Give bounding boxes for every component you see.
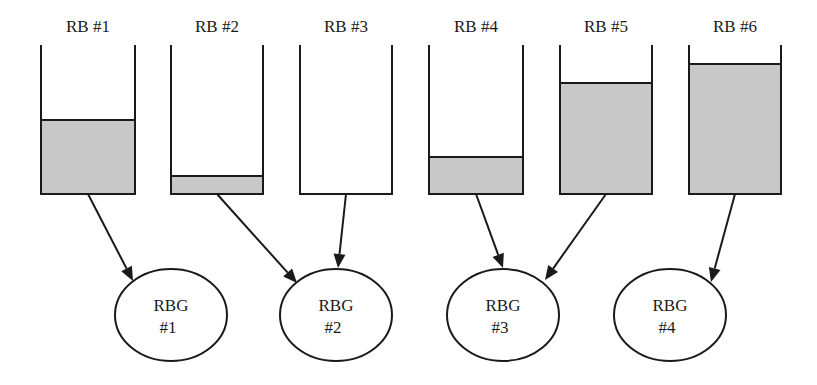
bucket-label: RB #6: [713, 17, 757, 36]
group-label-line1: RBG: [154, 296, 189, 315]
bucket-label: RB #5: [584, 17, 628, 36]
arrow-line: [553, 194, 606, 269]
group-label-line2: #3: [492, 318, 509, 337]
arrow-line: [340, 194, 346, 254]
bucket-outline: [300, 45, 392, 194]
arrow: [709, 194, 735, 282]
arrow-line: [476, 194, 498, 255]
arrow: [476, 194, 504, 268]
resource-bucket: RB #2: [171, 17, 263, 194]
group-label-line1: RBG: [486, 296, 521, 315]
resource-bucket: RB #1: [41, 17, 135, 194]
bucket-fill-level: [41, 120, 135, 194]
resource-buckets: RB #1RB #2RB #3RB #4RB #5RB #6: [41, 17, 781, 194]
resource-bucket: RB #6: [689, 17, 781, 194]
bucket-fill-level: [429, 157, 523, 194]
group-ellipse: [280, 269, 392, 361]
arrow: [88, 194, 133, 281]
arrow-line: [217, 194, 288, 273]
group-ellipse: [115, 269, 227, 361]
bucket-label: RB #2: [195, 17, 239, 36]
diagram-svg: RB #1RB #2RB #3RB #4RB #5RB #6 RBG#1RBG#…: [0, 0, 817, 385]
rb-to-rbg-diagram: RB #1RB #2RB #3RB #4RB #5RB #6 RBG#1RBG#…: [0, 0, 817, 385]
bucket-label: RB #1: [66, 17, 110, 36]
arrow-line: [715, 194, 735, 268]
arrow-line: [88, 194, 127, 269]
resource-bucket-group: RBG#3: [447, 269, 559, 361]
arrowhead-icon: [334, 253, 346, 268]
group-label-line1: RBG: [653, 296, 688, 315]
group-label-line2: #1: [160, 318, 177, 337]
resource-bucket-group: RBG#1: [115, 269, 227, 361]
resource-bucket-group: RBG#4: [614, 269, 726, 361]
arrow: [545, 194, 606, 280]
group-ellipse: [447, 269, 559, 361]
bucket-outline: [171, 45, 263, 194]
arrow: [217, 194, 297, 283]
group-ellipse: [614, 269, 726, 361]
bucket-fill-level: [560, 83, 652, 194]
group-label-line2: #2: [325, 318, 342, 337]
group-label-line1: RBG: [319, 296, 354, 315]
resource-bucket-groups: RBG#1RBG#2RBG#3RBG#4: [115, 269, 726, 361]
arrowhead-icon: [709, 267, 721, 282]
resource-bucket-group: RBG#2: [280, 269, 392, 361]
arrow: [334, 194, 346, 268]
arrowhead-icon: [545, 265, 558, 280]
resource-bucket: RB #5: [560, 17, 652, 194]
resource-bucket: RB #4: [429, 17, 523, 194]
bucket-label: RB #3: [324, 17, 368, 36]
group-label-line2: #4: [659, 318, 677, 337]
arrowhead-icon: [493, 253, 504, 268]
bucket-label: RB #4: [454, 17, 498, 36]
bucket-fill-level: [689, 64, 781, 194]
bucket-fill-level: [171, 176, 263, 194]
resource-bucket: RB #3: [300, 17, 392, 194]
